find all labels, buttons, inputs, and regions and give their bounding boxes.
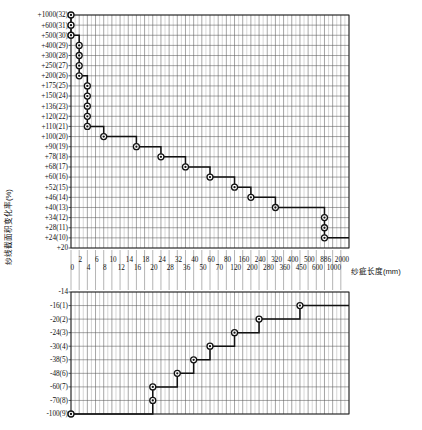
y-tick-label-lower: -20(2) [50,316,69,324]
y-tick-label-upper: +600(31) [41,22,68,30]
data-point-center [299,304,301,306]
y-tick-label-lower: -30(4) [50,343,69,351]
data-point-center [70,34,72,36]
y-tick-label-upper: +136(23) [41,103,68,111]
x-tick-label: 12 [118,264,126,272]
data-point-center [233,186,235,188]
x-tick-label: 320 [271,256,282,264]
data-point-center [258,318,260,320]
data-point-upper [68,32,74,38]
data-point-center [152,386,154,388]
x-tick-label: 160 [239,256,250,264]
x-tick-label: 240 [255,256,266,264]
data-point-upper [321,215,327,221]
y-tick-label-upper: +120(22) [41,113,68,121]
x-tick-label: 450 [296,264,307,272]
x-tick-label: 80 [224,256,232,264]
y-tick-label-upper: +40(13) [45,204,69,212]
y-tick-label-upper: +24(10) [45,234,69,242]
y-tick-label-upper: +300(28) [41,52,68,60]
data-point-lower [191,357,197,363]
x-tick-label: 32 [175,256,183,264]
data-point-upper [248,194,254,200]
data-point-center [209,345,211,347]
y-tick-label-lower: -38(5) [50,356,69,364]
data-point-lower [232,330,238,336]
x-tick-label: 20 [150,264,158,272]
data-point-upper [182,164,188,170]
yarn-fault-classification-chart: +1000(32)+600(31)+500(30)+400(29)+300(28… [0,0,422,430]
data-point-upper [101,134,107,140]
x-tick-label: 6 [95,256,99,264]
y-tick-label-upper: +400(29) [41,42,68,50]
y-tick-label-lower: -14 [58,288,68,296]
y-tick-label-layer: +1000(32)+600(31)+500(30)+400(29)+300(28… [38,11,71,418]
x-tick-label: 60 [208,256,216,264]
x-tick-label: 24 [159,256,167,264]
x-tick-label: 2 [79,256,83,264]
data-point-upper [207,174,213,180]
data-point-center [78,75,80,77]
data-point-center [86,85,88,87]
y-tick-label-lower: -60(7) [50,383,69,391]
data-point-upper [232,184,238,190]
x-tick-label: 8 [103,264,107,272]
x-tick-label: 600 [312,264,323,272]
y-tick-label-upper: +52(15) [45,184,69,192]
x-tick-label: 14 [126,256,134,264]
x-tick-label: 16 [134,264,142,272]
data-point-center [323,237,325,239]
data-point-center [86,115,88,117]
x-tick-label: 2000 [335,256,350,264]
x-tick-label: 18 [142,256,150,264]
data-point-center [70,24,72,26]
chart-root: +1000(32)+600(31)+500(30)+400(29)+300(28… [0,0,422,430]
data-point-center [184,166,186,168]
data-point-upper [84,103,90,109]
y-tick-label-upper: +20 [57,244,69,252]
data-point-center [160,156,162,158]
y-tick-label-upper: +28(11) [45,224,69,232]
data-point-center [103,135,105,137]
data-point-center [70,413,72,415]
y-tick-label-upper: +34(12) [45,214,69,222]
y-tick-label-lower: -16(1) [50,302,69,310]
data-point-center [86,95,88,97]
x-tick-label: 40 [191,256,199,264]
data-point-center [78,44,80,46]
data-point-lower [256,316,262,322]
y-tick-label-upper: +100(20) [41,133,68,141]
data-point-center [209,176,211,178]
data-point-upper [68,22,74,28]
x-tick-label: 1000 [327,264,342,272]
data-point-center [176,372,178,374]
y-tick-label-upper: +60(16) [45,173,69,181]
x-tick-label: 28 [167,264,175,272]
x-tick-label: 120 [230,264,241,272]
data-point-upper [84,123,90,129]
data-point-upper [76,53,82,59]
data-point-center [78,65,80,67]
data-point-center [70,14,72,16]
x-tick-label: 10 [109,256,117,264]
data-point-center [86,105,88,107]
x-tick-label: 200 [247,264,258,272]
x-tick-label: 70 [216,264,224,272]
data-point-upper [76,63,82,69]
data-point-lower [174,370,180,376]
data-point-upper [76,73,82,79]
y-tick-label-lower: -70(8) [50,397,69,405]
y-tick-label-lower: -24(3) [50,329,69,337]
x-tick-label: 50 [199,264,207,272]
x-tick-label: 886 [320,256,331,264]
data-point-center [78,54,80,56]
data-point-lower [207,343,213,349]
series-layer [68,12,349,417]
y-tick-label-upper: +90(19) [45,143,69,151]
data-point-upper [321,235,327,241]
data-point-center [86,125,88,127]
data-point-upper [84,83,90,89]
data-point-center [323,227,325,229]
data-point-upper [76,42,82,48]
x-tick-label: 280 [263,264,274,272]
